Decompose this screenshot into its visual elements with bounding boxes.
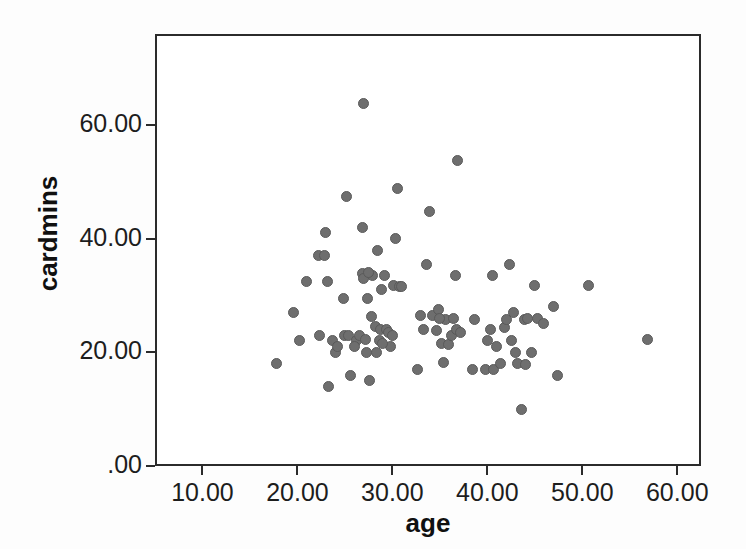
x-axis-tick [581, 466, 583, 475]
x-axis-tick-label: 60.00 [646, 478, 709, 507]
x-axis-tick-label: 10.00 [171, 478, 234, 507]
x-axis-tick-label: 40.00 [456, 478, 519, 507]
y-axis-tick-label: .00 [50, 450, 142, 479]
x-axis-tick-label: 50.00 [551, 478, 614, 507]
x-axis-tick [296, 466, 298, 475]
x-axis-tick [676, 466, 678, 475]
x-axis-tick [391, 466, 393, 475]
y-axis-tick-label: 20.00 [50, 336, 142, 365]
x-axis-tick [201, 466, 203, 475]
y-axis-tick [146, 465, 155, 467]
plot-area-frame [155, 34, 701, 466]
x-axis-tick-label: 30.00 [361, 478, 424, 507]
y-axis-tick-label: 40.00 [50, 223, 142, 252]
scatter-plot-figure: .0020.0040.0060.00 10.0020.0030.0040.005… [0, 0, 746, 549]
y-axis-tick [146, 351, 155, 353]
x-axis-tick-label: 20.00 [266, 478, 329, 507]
y-axis-tick [146, 124, 155, 126]
x-axis-tick [486, 466, 488, 475]
y-axis-tick [146, 238, 155, 240]
y-axis-tick-label: 60.00 [50, 109, 142, 138]
y-axis-title: cardmins [33, 144, 64, 324]
x-axis-title: age [155, 508, 701, 539]
